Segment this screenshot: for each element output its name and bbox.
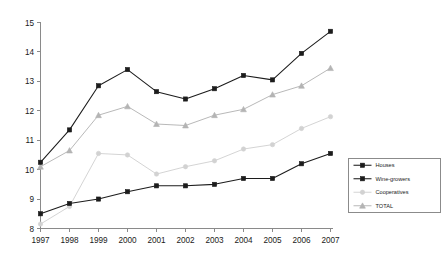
data-point-marker bbox=[183, 165, 187, 169]
data-point-marker bbox=[125, 67, 129, 71]
x-axis-tick-label: 1999 bbox=[89, 236, 108, 245]
data-point-marker bbox=[328, 114, 332, 118]
y-axis-tick-label: 8 bbox=[29, 225, 34, 234]
y-axis-tick-label: 11 bbox=[26, 136, 35, 145]
x-axis-tick-label: 2001 bbox=[147, 236, 166, 245]
x-axis-tick-label: 2004 bbox=[234, 236, 253, 245]
data-point-marker bbox=[360, 190, 364, 194]
data-point-marker bbox=[328, 151, 332, 155]
series-total bbox=[38, 65, 334, 169]
x-axis-tick-label: 2000 bbox=[118, 236, 137, 245]
data-point-marker bbox=[212, 182, 216, 186]
series-wine-growers bbox=[38, 151, 332, 216]
data-point-marker bbox=[67, 128, 71, 132]
line-chart: 89101112131415 1997199819992000200120022… bbox=[0, 0, 444, 262]
x-axis-tick-label: 1997 bbox=[31, 236, 50, 245]
chart-canvas: 89101112131415 1997199819992000200120022… bbox=[0, 0, 444, 262]
data-point-marker bbox=[299, 83, 305, 88]
y-axis-tick-label: 10 bbox=[25, 166, 35, 175]
data-point-marker bbox=[96, 151, 100, 155]
data-point-marker bbox=[38, 222, 42, 226]
x-axis-tick-label: 2007 bbox=[321, 236, 340, 245]
data-point-marker bbox=[241, 147, 245, 151]
y-axis-tick-label: 15 bbox=[25, 19, 35, 28]
data-point-marker bbox=[183, 97, 187, 101]
x-axis: 1997199819992000200120022003200420052006… bbox=[31, 229, 340, 245]
data-point-marker bbox=[360, 177, 364, 181]
series-layer bbox=[38, 29, 334, 226]
legend-label: Cooperatives bbox=[376, 189, 409, 195]
data-point-marker bbox=[299, 162, 303, 166]
legend-label: TOTAL bbox=[376, 203, 394, 209]
data-point-marker bbox=[154, 90, 158, 94]
series-line bbox=[41, 68, 331, 167]
x-axis-tick-label: 2005 bbox=[263, 236, 282, 245]
y-axis-tick-label: 14 bbox=[25, 48, 35, 57]
x-axis-tick-label: 2003 bbox=[205, 236, 224, 245]
data-point-marker bbox=[270, 142, 274, 146]
chart-legend: HousesWine-growersCooperativesTOTAL bbox=[349, 159, 441, 213]
data-point-marker bbox=[241, 106, 247, 111]
data-point-marker bbox=[270, 78, 274, 82]
legend-item-wine-growers[interactable]: Wine-growers bbox=[354, 176, 411, 182]
data-point-marker bbox=[154, 172, 158, 176]
data-point-marker bbox=[241, 176, 245, 180]
y-axis-tick-label: 9 bbox=[29, 195, 34, 204]
x-axis-tick-label: 2002 bbox=[176, 236, 195, 245]
data-point-marker bbox=[360, 163, 364, 167]
data-point-marker bbox=[125, 190, 129, 194]
data-point-marker bbox=[241, 73, 245, 77]
data-point-marker bbox=[96, 84, 100, 88]
data-point-marker bbox=[125, 153, 129, 157]
legend-label: Houses bbox=[376, 162, 395, 168]
series-houses bbox=[38, 29, 332, 164]
data-point-marker bbox=[96, 197, 100, 201]
data-point-marker bbox=[125, 103, 131, 108]
legend-item-cooperatives[interactable]: Cooperatives bbox=[354, 189, 409, 195]
x-axis-tick-label: 2006 bbox=[292, 236, 311, 245]
data-point-marker bbox=[328, 65, 334, 70]
y-axis-tick-label: 13 bbox=[25, 77, 35, 86]
data-point-marker bbox=[67, 201, 71, 205]
legend-label: Wine-growers bbox=[376, 176, 411, 182]
data-point-marker bbox=[270, 176, 274, 180]
data-point-marker bbox=[183, 184, 187, 188]
y-axis: 89101112131415 bbox=[25, 19, 41, 234]
data-point-marker bbox=[38, 212, 42, 216]
y-axis-tick-label: 12 bbox=[25, 107, 35, 116]
data-point-marker bbox=[212, 87, 216, 91]
data-point-marker bbox=[212, 159, 216, 163]
data-point-marker bbox=[328, 29, 332, 33]
x-axis-tick-label: 1998 bbox=[60, 236, 79, 245]
data-point-marker bbox=[154, 184, 158, 188]
data-point-marker bbox=[299, 126, 303, 130]
data-point-marker bbox=[38, 160, 42, 164]
data-point-marker bbox=[299, 51, 303, 55]
